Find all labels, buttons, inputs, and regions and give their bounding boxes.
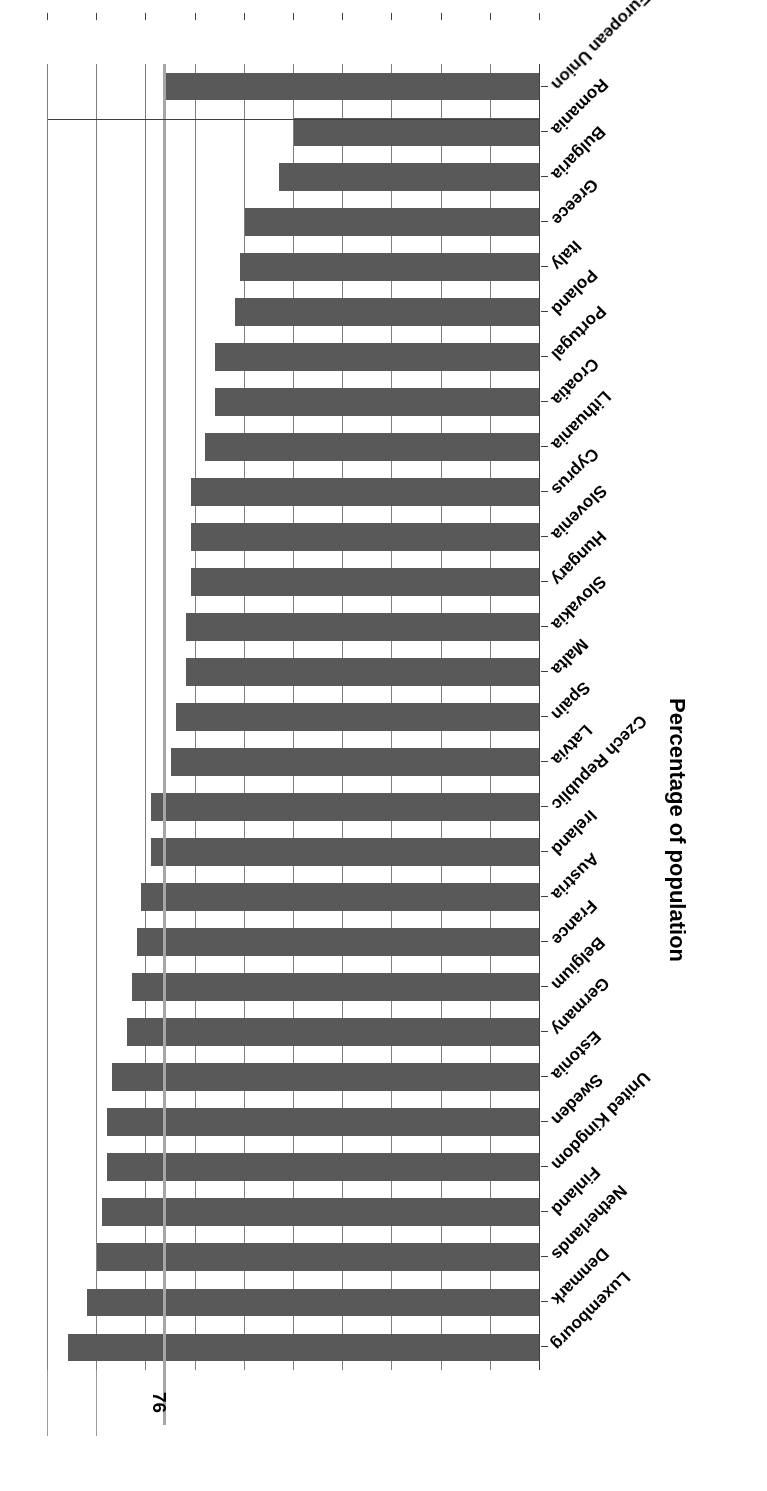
category-tick (541, 446, 548, 447)
bar (176, 703, 540, 731)
value-tick-label: 0 (528, 0, 552, 12)
category-tick (541, 1256, 548, 1257)
value-tick (47, 13, 48, 20)
category-tick (541, 401, 548, 402)
rotated-chart-container: Percentage of population 010203040506070… (0, 0, 767, 1491)
bar (240, 253, 540, 281)
category-tick (541, 86, 548, 87)
category-tick (541, 221, 548, 222)
bar (141, 883, 540, 911)
value-tick (96, 13, 97, 20)
value-tick (145, 13, 146, 20)
value-axis (48, 119, 540, 120)
category-tick (541, 266, 548, 267)
category-tick (541, 581, 548, 582)
value-tick (441, 13, 442, 20)
value-tick-label: 50 (282, 0, 306, 12)
category-tick (541, 536, 548, 537)
category-tick (541, 941, 548, 942)
category-tick (541, 1031, 548, 1032)
bar (87, 1289, 540, 1317)
value-tick-label: 30 (380, 0, 404, 12)
bar (107, 1108, 540, 1136)
category-tick (541, 896, 548, 897)
bar (102, 1198, 540, 1226)
bar (215, 343, 540, 371)
category-tick (541, 311, 548, 312)
value-tick-label: 70 (184, 0, 208, 12)
bar (132, 973, 540, 1001)
category-tick (541, 671, 548, 672)
bar (215, 388, 540, 416)
category-tick (541, 1211, 548, 1212)
category-tick (541, 1166, 548, 1167)
bar (279, 163, 540, 191)
category-axis (539, 64, 540, 1370)
category-label: Spain (547, 677, 594, 724)
category-tick (541, 491, 548, 492)
category-tick (541, 176, 548, 177)
bar (68, 1334, 540, 1362)
bar (245, 208, 540, 236)
value-tick (244, 13, 245, 20)
category-tick (541, 1346, 548, 1347)
bar (191, 523, 540, 551)
bar (112, 1063, 540, 1091)
value-tick (293, 13, 294, 20)
value-tick (342, 13, 343, 20)
reference-line (163, 64, 166, 1425)
category-label: Italy (547, 236, 585, 274)
value-tick (490, 13, 491, 20)
bar (186, 658, 540, 686)
value-tick-label: 60 (233, 0, 257, 12)
value-tick (391, 13, 392, 20)
category-tick (541, 851, 548, 852)
value-tick-label: 90 (85, 0, 109, 12)
bar (191, 568, 540, 596)
bar (294, 118, 540, 146)
value-tick-label: 10 (479, 0, 503, 12)
bar (137, 928, 540, 956)
category-tick (541, 716, 548, 717)
value-tick (195, 13, 196, 20)
category-label: Greece (547, 174, 602, 229)
category-label: Austria (547, 849, 603, 905)
plot-area (48, 64, 540, 1370)
bar (205, 433, 540, 461)
bar (166, 73, 540, 101)
category-tick (541, 1076, 548, 1077)
bar (235, 298, 540, 326)
gridline (47, 64, 48, 1370)
value-tick-label: 20 (430, 0, 454, 12)
reference-line-label: 76 (148, 1392, 170, 1413)
value-tick-label: 80 (134, 0, 158, 12)
category-label: Ireland (547, 806, 601, 860)
bar (186, 613, 540, 641)
value-tick-label: 100 (36, 0, 60, 12)
value-tick (539, 13, 540, 20)
category-tick (541, 806, 548, 807)
category-tick (541, 761, 548, 762)
bar (127, 1018, 540, 1046)
category-tick (541, 626, 548, 627)
bar (151, 838, 540, 866)
value-tick-label: 40 (331, 0, 355, 12)
bar (151, 793, 540, 821)
bar (191, 478, 540, 506)
gridline (96, 64, 97, 1370)
bar-chart-figure: Percentage of population 010203040506070… (0, 0, 767, 1491)
category-label: Malta (547, 634, 592, 679)
category-tick (541, 1301, 548, 1302)
bar (171, 748, 540, 776)
category-tick (541, 1121, 548, 1122)
axis-title: Percentage of population (664, 698, 690, 998)
category-tick (541, 986, 548, 987)
bar (107, 1153, 540, 1181)
category-tick (541, 131, 548, 132)
category-tick (541, 356, 548, 357)
